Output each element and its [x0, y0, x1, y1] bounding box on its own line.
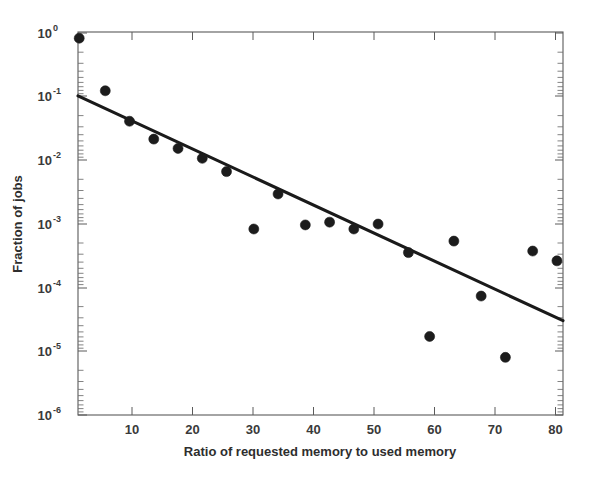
axes-frame [78, 32, 563, 415]
y-tick-label: 10 0 [38, 23, 58, 41]
data-point [500, 352, 510, 362]
data-point [373, 219, 383, 229]
y-tick-mantissa: 10 [38, 89, 52, 104]
y-tick-labels: 10 0 10 -1 10 -2 10 -3 10 -4 10 -5 [38, 23, 61, 423]
x-tick-label: 10 [125, 422, 139, 437]
y-tick-mantissa: 10 [38, 153, 52, 168]
data-point [449, 236, 459, 246]
data-point [197, 153, 207, 163]
data-points-series [74, 33, 562, 362]
plot-canvas: 10 0 10 -1 10 -2 10 -3 10 -4 10 -5 [0, 0, 598, 479]
data-point [273, 189, 283, 199]
data-point [528, 246, 538, 256]
y-tick-label: 10 -1 [38, 86, 61, 104]
y-tick-exponent: -3 [53, 214, 61, 224]
data-point [425, 331, 435, 341]
data-point [149, 134, 159, 144]
data-point [125, 116, 135, 126]
data-point [325, 217, 335, 227]
x-tick-label: 30 [246, 422, 260, 437]
x-tick-label: 70 [488, 422, 502, 437]
y-tick-label: 10 -4 [38, 278, 61, 296]
y-axis-minor-ticks [78, 52, 563, 412]
fit-line [78, 96, 563, 321]
y-tick-label: 10 -2 [38, 150, 61, 168]
x-tick-label: 50 [367, 422, 381, 437]
y-tick-label: 10 -6 [38, 405, 61, 423]
y-axis-major-ticks [78, 33, 563, 415]
y-tick-mantissa: 10 [38, 281, 52, 296]
y-tick-mantissa: 10 [38, 408, 52, 423]
data-point [100, 86, 110, 96]
data-point [476, 291, 486, 301]
data-point [74, 33, 84, 43]
x-axis-ticks [132, 32, 556, 415]
y-tick-exponent: 0 [53, 23, 58, 33]
data-point [349, 224, 359, 234]
y-tick-exponent: -4 [53, 278, 61, 288]
x-tick-label: 60 [427, 422, 441, 437]
y-tick-mantissa: 10 [38, 217, 52, 232]
y-tick-exponent: -1 [53, 86, 61, 96]
y-tick-exponent: -5 [53, 341, 61, 351]
x-axis-title: Ratio of requested memory to used memory [184, 444, 457, 459]
x-tick-label: 80 [548, 422, 562, 437]
data-point [173, 143, 183, 153]
data-point [403, 248, 413, 258]
y-tick-label: 10 -5 [38, 341, 61, 359]
y-tick-label: 10 -3 [38, 214, 61, 232]
y-tick-exponent: -6 [53, 405, 61, 415]
data-point [222, 167, 232, 177]
y-tick-mantissa: 10 [38, 344, 52, 359]
data-point [552, 256, 562, 266]
x-tick-label: 40 [306, 422, 320, 437]
fit-line-series [78, 96, 563, 321]
x-tick-labels: 10 20 30 40 50 60 70 80 [125, 422, 563, 437]
y-axis-title: Fraction of jobs [10, 175, 25, 273]
data-point [249, 224, 259, 234]
chart-figure: 10 0 10 -1 10 -2 10 -3 10 -4 10 -5 [0, 0, 598, 479]
y-tick-exponent: -2 [53, 150, 61, 160]
y-tick-mantissa: 10 [38, 26, 52, 41]
x-tick-label: 20 [185, 422, 199, 437]
data-point [300, 220, 310, 230]
